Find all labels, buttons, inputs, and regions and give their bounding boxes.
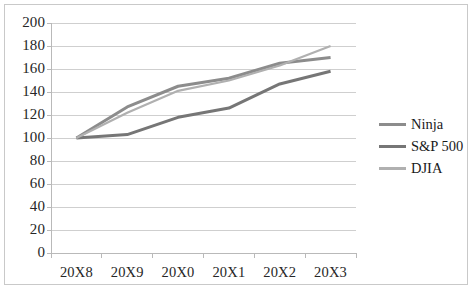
y-axis-tick-label: 60 — [9, 176, 45, 191]
y-axis-tick-label: 100 — [9, 130, 45, 145]
legend-item[interactable]: Ninja — [379, 113, 471, 135]
legend-swatch-icon — [379, 145, 406, 148]
legend-swatch-icon — [379, 167, 406, 170]
chart-plot-area: 020406080100120140160180200 20X820X920X0… — [5, 5, 467, 284]
chart-frame: 020406080100120140160180200 20X820X920X0… — [4, 4, 468, 285]
x-axis-tick-label: 20X2 — [254, 265, 305, 280]
x-axis-tick-label: 20X1 — [204, 265, 255, 280]
legend-item[interactable]: DJIA — [379, 157, 471, 179]
y-axis-tick-label: 120 — [9, 107, 45, 122]
y-axis-tick-label: 0 — [9, 245, 45, 260]
legend-item[interactable]: S&P 500 — [379, 135, 471, 157]
chart-legend: NinjaS&P 500DJIA — [379, 113, 471, 179]
y-axis-tick-label: 180 — [9, 38, 45, 53]
x-axis-tick-label: 20X3 — [305, 265, 356, 280]
y-axis-tick-label: 80 — [9, 153, 45, 168]
legend-label: S&P 500 — [411, 139, 463, 154]
x-axis-tick-label: 20X0 — [153, 265, 204, 280]
x-axis-tick-label: 20X9 — [102, 265, 153, 280]
y-axis-tick-label: 200 — [9, 15, 45, 30]
y-axis-tick-label: 40 — [9, 199, 45, 214]
legend-label: DJIA — [411, 161, 442, 176]
legend-swatch-icon — [379, 123, 406, 126]
x-axis-tick-label: 20X8 — [51, 265, 102, 280]
y-axis-tick-label: 140 — [9, 84, 45, 99]
y-axis-tick-label: 160 — [9, 61, 45, 76]
series-line-ninja — [76, 58, 330, 139]
legend-label: Ninja — [411, 117, 443, 132]
y-axis-tick-label: 20 — [9, 222, 45, 237]
